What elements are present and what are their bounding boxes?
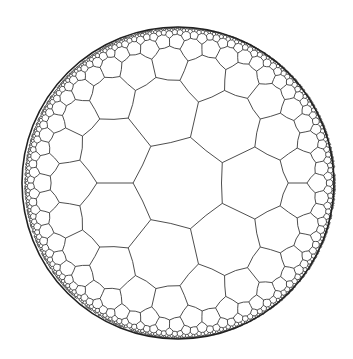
poincare-disk xyxy=(0,0,353,359)
hyperbolic-tiling-figure xyxy=(0,0,353,359)
